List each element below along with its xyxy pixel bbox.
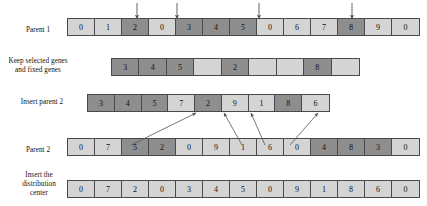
row-label-insert-distribution-center: Insert the distribution center — [12, 171, 66, 198]
gene-cell — [332, 59, 359, 75]
gene-cell: 3 — [176, 19, 203, 35]
crossover-diagram: Parent 10120345067890Keep selected genes… — [0, 0, 427, 206]
gene-cell: 5 — [230, 19, 257, 35]
gene-cell: 6 — [365, 181, 392, 197]
gene-cell: 8 — [275, 95, 302, 111]
gene-cell: 0 — [257, 181, 284, 197]
gene-cell: 0 — [149, 181, 176, 197]
gene-cell: 2 — [122, 19, 149, 35]
gene-cell: 5 — [230, 181, 257, 197]
gene-cell: 4 — [203, 19, 230, 35]
gene-cell: 0 — [392, 181, 419, 197]
gene-cell: 1 — [311, 181, 338, 197]
gene-cell: 4 — [203, 181, 230, 197]
gene-cell: 2 — [122, 181, 149, 197]
cut-point-arrows — [137, 3, 352, 19]
gene-cell: 0 — [392, 139, 419, 155]
gene-cell — [249, 59, 276, 75]
gene-cell: 1 — [249, 95, 276, 111]
gene-cell: 0 — [392, 19, 419, 35]
gene-cell: 7 — [95, 139, 122, 155]
gene-cell: 4 — [115, 95, 142, 111]
chromosome-parent2: 0752091604830 — [67, 138, 420, 156]
gene-cell: 4 — [311, 139, 338, 155]
gene-cell: 7 — [311, 19, 338, 35]
gene-cell: 1 — [95, 19, 122, 35]
gene-cell: 5 — [167, 59, 194, 75]
gene-cell: 8 — [338, 139, 365, 155]
chromosome-parent1: 0120345067890 — [67, 18, 420, 36]
gene-cell: 1 — [230, 139, 257, 155]
gene-cell: 0 — [68, 19, 95, 35]
gene-cell: 7 — [95, 181, 122, 197]
gene-cell: 2 — [149, 139, 176, 155]
gene-cell: 9 — [203, 139, 230, 155]
gene-cell: 7 — [168, 95, 195, 111]
gene-cell: 2 — [222, 59, 249, 75]
chromosome-insert-parent2: 345729186 — [87, 94, 330, 112]
gene-cell: 3 — [365, 139, 392, 155]
gene-cell: 5 — [142, 95, 169, 111]
gene-cell: 6 — [257, 139, 284, 155]
row-label-parent1: Parent 1 — [14, 26, 62, 35]
gene-cell: 3 — [88, 95, 115, 111]
gene-cell — [277, 59, 304, 75]
gene-cell — [194, 59, 221, 75]
gene-cell: 8 — [338, 181, 365, 197]
gene-cell: 5 — [122, 139, 149, 155]
gene-cell: 0 — [176, 139, 203, 155]
gene-cell: 9 — [222, 95, 249, 111]
row-label-parent2: Parent 2 — [14, 146, 62, 155]
gene-cell: 0 — [68, 139, 95, 155]
gene-cell: 9 — [284, 181, 311, 197]
chromosome-keep-selected: 34528 — [111, 58, 360, 76]
gene-cell: 0 — [149, 19, 176, 35]
gene-cell: 6 — [284, 19, 311, 35]
row-label-keep-selected: Keep selected genes and fixed genes — [6, 57, 70, 75]
gene-cell: 9 — [365, 19, 392, 35]
row-label-insert-parent2: Insert parent 2 — [6, 98, 78, 107]
gene-cell: 2 — [195, 95, 222, 111]
gene-cell: 6 — [302, 95, 329, 111]
gene-cell: 4 — [139, 59, 166, 75]
gene-cell: 0 — [257, 19, 284, 35]
gene-cell: 8 — [304, 59, 331, 75]
gene-cell: 0 — [284, 139, 311, 155]
gene-cell: 3 — [112, 59, 139, 75]
gene-cell: 8 — [338, 19, 365, 35]
chromosome-insert-distribution-center: 0720345091860 — [67, 180, 420, 198]
gene-cell: 0 — [68, 181, 95, 197]
gene-cell: 3 — [176, 181, 203, 197]
